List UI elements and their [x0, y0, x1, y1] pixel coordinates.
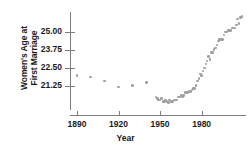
y-tick-label: 22.50: [18, 63, 62, 72]
y-tick-label: 25.00: [18, 27, 62, 36]
data-point: [196, 80, 199, 83]
data-point: [89, 76, 92, 79]
data-point: [131, 84, 134, 87]
x-tick-label: 1980: [182, 119, 222, 129]
data-point: [202, 70, 205, 73]
data-point: [211, 51, 214, 54]
data-point: [103, 80, 106, 83]
x-tick-mark: [202, 111, 203, 116]
data-point: [182, 94, 185, 97]
data-point: [229, 29, 232, 32]
data-point: [241, 15, 244, 18]
data-point: [238, 22, 241, 25]
x-tick-mark: [119, 111, 120, 116]
x-tick-label: 1950: [140, 119, 180, 129]
scatter-chart: Women's Age at First Marriage 21.2522.50…: [0, 0, 251, 153]
data-point: [221, 38, 224, 41]
data-point: [234, 27, 237, 30]
data-point: [195, 84, 198, 87]
x-tick-label: 1920: [99, 119, 139, 129]
data-point: [145, 81, 148, 84]
y-tick-label: 23.75: [18, 45, 62, 54]
x-axis-line: [70, 115, 246, 116]
data-point: [203, 67, 206, 70]
x-tick-label: 1890: [57, 119, 97, 129]
data-points-layer: [70, 10, 246, 110]
data-point: [205, 63, 208, 66]
y-axis-title-line-2: First Marriage: [29, 31, 39, 86]
data-point: [117, 86, 120, 89]
x-tick-mark: [77, 111, 78, 116]
data-point: [193, 87, 196, 90]
data-point: [209, 58, 212, 61]
data-point: [200, 74, 203, 77]
data-point: [223, 34, 226, 37]
data-point: [76, 74, 79, 77]
y-axis-title: Women's Age at First Marriage: [14, 8, 44, 108]
x-tick-mark: [160, 111, 161, 116]
y-tick-label: 21.25: [18, 81, 62, 90]
data-point: [175, 99, 178, 102]
x-axis-title: Year: [0, 133, 251, 143]
data-point: [198, 77, 201, 80]
